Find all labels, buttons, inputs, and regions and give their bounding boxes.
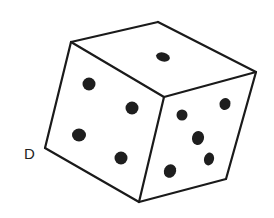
vertex-label-d: D: [24, 145, 35, 162]
left-pip-2: [126, 102, 139, 115]
left-pip-3: [72, 129, 86, 142]
left-pip-4: [115, 152, 128, 165]
right-pip-1: [177, 110, 188, 121]
die-faces-fill: [45, 22, 256, 202]
left-pip-1: [83, 78, 96, 91]
die-diagram: D: [0, 0, 274, 218]
